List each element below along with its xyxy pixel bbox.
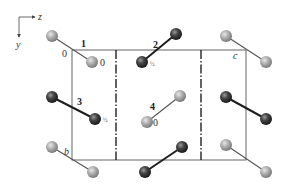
bond	[52, 147, 93, 172]
light-atom	[141, 116, 153, 128]
light-atom	[87, 166, 99, 178]
dark-atom	[260, 113, 272, 125]
z-axis-label: z	[37, 11, 42, 22]
light-atom	[260, 56, 272, 68]
bond	[142, 34, 176, 62]
dark-atom	[46, 91, 58, 103]
molecule-3-height: ½	[103, 117, 108, 123]
molecule-1-number: 1	[81, 38, 86, 49]
molecule-8	[139, 141, 188, 178]
molecule-1-height: 0	[100, 57, 105, 68]
molecule-3	[46, 91, 101, 125]
light-atom	[46, 141, 58, 153]
symmetry-lines	[116, 50, 201, 160]
light-atom	[220, 30, 232, 42]
molecule-4-number: 4	[150, 101, 155, 112]
bond	[52, 97, 95, 119]
molecule-2	[136, 28, 182, 68]
molecule-4-height: 0	[153, 117, 158, 128]
light-atom	[260, 166, 272, 178]
light-atom	[220, 139, 232, 151]
light-atom	[46, 30, 58, 42]
light-atom	[174, 90, 186, 102]
dark-atom	[170, 28, 182, 40]
crystal-structure-diagram: z y 0 b c 1 2 3 4 0 ½ ½ 0	[0, 0, 286, 188]
dark-atom	[89, 113, 101, 125]
molecule-3-number: 3	[77, 96, 82, 107]
molecule-4	[141, 90, 186, 128]
c-axis-label: c	[233, 50, 238, 61]
b-axis-label: b	[64, 146, 69, 157]
y-axis-label: y	[15, 39, 21, 50]
axes-indicator: z y	[15, 11, 42, 50]
molecule-2-height: ½	[150, 61, 155, 67]
dark-atom	[139, 166, 151, 178]
bond	[145, 147, 182, 172]
molecule-2-number: 2	[153, 39, 158, 50]
light-atom	[86, 56, 98, 68]
unit-cell	[72, 50, 246, 160]
dark-atom	[136, 56, 148, 68]
dark-atom	[220, 91, 232, 103]
origin-label: 0	[62, 48, 67, 59]
dark-atom	[176, 141, 188, 153]
molecule-7	[46, 141, 99, 178]
